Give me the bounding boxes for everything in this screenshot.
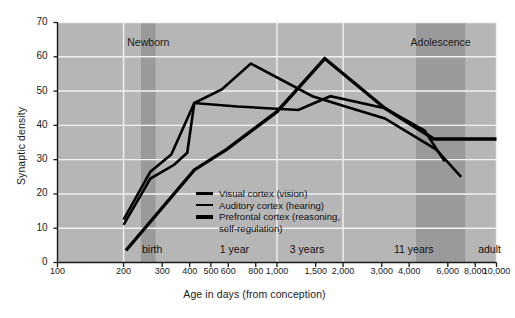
legend-item-visual-cortex: Visual cortex (vision) <box>196 188 340 200</box>
newborn-band-label: Newborn <box>88 36 208 48</box>
y-tick-label-50: 50 <box>22 85 48 96</box>
adult-marker-label: adult <box>455 243 515 255</box>
x-axis-title: Age in days (from conception) <box>0 288 509 300</box>
y-tick-label-10: 10 <box>22 222 48 233</box>
y-tick-label-60: 60 <box>22 50 48 61</box>
birth-marker-label: birth <box>117 243 187 255</box>
one-year-marker-label: 1 year <box>199 243 269 255</box>
x-tick-label-100: 100 <box>28 266 88 276</box>
legend-swatch-auditory-cortex <box>196 204 213 207</box>
legend-item-prefrontal-cortex: Prefrontal cortex (reasoning, <box>196 211 340 223</box>
legend-item-auditory-cortex: Auditory cortex (hearing) <box>196 200 340 212</box>
y-tick-label-40: 40 <box>22 119 48 130</box>
adolescence-band-label: Adolescence <box>381 36 501 48</box>
eleven-years-marker-label: 11 years <box>379 243 449 255</box>
legend-label-auditory-cortex: Auditory cortex (hearing) <box>219 200 324 211</box>
three-years-marker-label: 3 years <box>272 243 342 255</box>
x-tick-label-10000: 10,000 <box>467 266 515 276</box>
legend-swatch-prefrontal-cortex <box>196 215 213 218</box>
y-tick-label-20: 20 <box>22 187 48 198</box>
legend-item-prefrontal-cortex-line2: self-regulation) <box>196 223 340 235</box>
chart-legend: Visual cortex (vision) Auditory cortex (… <box>196 188 340 234</box>
y-tick-label-30: 30 <box>22 153 48 164</box>
legend-label-prefrontal-cortex: Prefrontal cortex (reasoning, <box>219 211 340 222</box>
legend-swatch-visual-cortex <box>196 192 213 195</box>
legend-label-visual-cortex: Visual cortex (vision) <box>219 188 307 199</box>
y-tick-label-70: 70 <box>22 16 48 27</box>
legend-label-prefrontal-cortex-cont: self-regulation) <box>219 223 282 234</box>
